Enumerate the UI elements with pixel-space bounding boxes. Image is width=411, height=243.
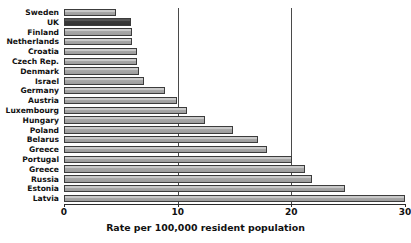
category-label-5: Czech Rep. (0, 57, 61, 67)
x-tick-label-0: 0 (61, 207, 67, 217)
category-axis-labels: SwedenUKFinlandNetherlandsCroatiaCzech R… (0, 8, 61, 204)
category-label-16: Greece (0, 165, 61, 175)
category-label-19: Latvia (0, 194, 61, 204)
bar-austria-9 (64, 97, 177, 104)
bar-finland-2 (64, 28, 132, 35)
bar-rows (64, 8, 405, 204)
category-label-18: Estonia (0, 184, 61, 194)
bar-row (64, 135, 405, 145)
bar-row (64, 175, 405, 185)
bar-croatia-4 (64, 48, 137, 55)
bar-row (64, 86, 405, 96)
bar-row (64, 28, 405, 38)
bar-row (64, 165, 405, 175)
category-label-17: Russia (0, 175, 61, 185)
bar-hungary-11 (64, 116, 205, 123)
x-tick-label-30: 30 (399, 207, 411, 217)
bar-row (64, 145, 405, 155)
bar-uk-1 (64, 18, 131, 25)
bar-germany-8 (64, 87, 165, 94)
bar-czech-rep-5 (64, 58, 137, 65)
category-label-9: Austria (0, 96, 61, 106)
category-label-0: Sweden (0, 8, 61, 18)
category-label-14: Greece (0, 145, 61, 155)
bar-row (64, 194, 405, 204)
x-tick-label-10: 10 (171, 207, 184, 217)
bar-row (64, 8, 405, 18)
bar-row (64, 126, 405, 136)
category-label-3: Netherlands (0, 37, 61, 47)
bar-portugal-15 (64, 156, 292, 163)
bar-chart: SwedenUKFinlandNetherlandsCroatiaCzech R… (0, 0, 411, 243)
bar-netherlands-3 (64, 38, 132, 45)
plot-area (64, 8, 405, 204)
category-label-11: Hungary (0, 116, 61, 126)
bar-row (64, 155, 405, 165)
category-label-10: Luxembourg (0, 106, 61, 116)
bar-latvia-19 (64, 195, 405, 202)
bar-estonia-18 (64, 185, 345, 192)
category-label-4: Croatia (0, 47, 61, 57)
bar-sweden-0 (64, 9, 116, 16)
bar-israel-7 (64, 77, 144, 84)
bar-row (64, 67, 405, 77)
bar-row (64, 184, 405, 194)
category-label-6: Denmark (0, 67, 61, 77)
bar-row (64, 116, 405, 126)
x-tick-label-20: 20 (285, 207, 298, 217)
bar-row (64, 57, 405, 67)
bar-row (64, 37, 405, 47)
category-label-2: Finland (0, 28, 61, 38)
bar-belarus-13 (64, 136, 258, 143)
category-label-1: UK (0, 18, 61, 28)
bar-greece-16 (64, 165, 305, 172)
category-label-12: Poland (0, 126, 61, 136)
bar-luxembourg-10 (64, 107, 187, 114)
category-label-7: Israel (0, 77, 61, 87)
category-label-15: Portugal (0, 155, 61, 165)
bar-row (64, 47, 405, 57)
bar-russia-17 (64, 175, 312, 182)
category-label-13: Belarus (0, 135, 61, 145)
bar-greece-14 (64, 146, 267, 153)
bar-row (64, 96, 405, 106)
x-axis-line (64, 204, 406, 205)
category-label-8: Germany (0, 86, 61, 96)
bar-poland-12 (64, 126, 233, 133)
bar-row (64, 106, 405, 116)
x-axis-title: Rate per 100,000 resident population (0, 222, 411, 233)
bar-row (64, 18, 405, 28)
bar-row (64, 77, 405, 87)
bar-denmark-6 (64, 67, 139, 74)
